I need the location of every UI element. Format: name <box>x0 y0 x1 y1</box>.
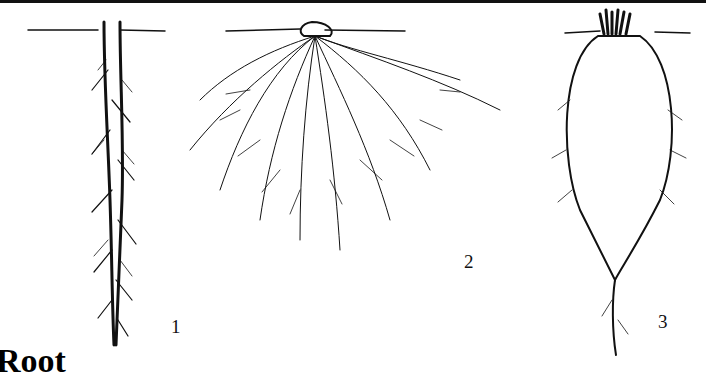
panel-label-1: 1 <box>171 316 181 338</box>
taproot-drawing <box>92 22 136 345</box>
panel-label-2: 2 <box>464 251 474 273</box>
storage-root-drawing <box>552 10 686 355</box>
section-heading: Root <box>0 344 66 376</box>
fibrous-root-drawing <box>190 22 500 250</box>
panel-label-3: 3 <box>658 311 668 333</box>
soil-line-2 <box>226 29 405 31</box>
soil-line-1 <box>28 30 165 31</box>
